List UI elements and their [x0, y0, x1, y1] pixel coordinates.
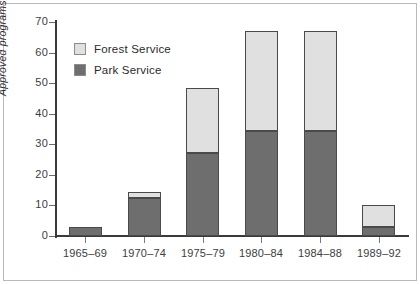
y-tick-label: 40 [4, 107, 48, 119]
bar-segment-forest-service [304, 31, 337, 130]
x-tick-mark [85, 237, 86, 243]
x-tick-mark [320, 237, 321, 243]
legend-label-park-service: Park Service [94, 64, 162, 76]
bar-segment-forest-service [362, 205, 395, 226]
bar-segment-park-service [128, 198, 161, 236]
y-tick-mark [49, 22, 55, 23]
bar-segment-forest-service [186, 88, 219, 154]
legend-item-park-service: Park Service [74, 61, 171, 78]
y-tick-mark [49, 236, 55, 237]
legend-swatch-park-service [74, 64, 86, 76]
x-tick-mark [203, 237, 204, 243]
legend-item-forest-service: Forest Service [74, 40, 171, 57]
bar-segment-park-service [245, 131, 278, 236]
y-tick-mark [49, 83, 55, 84]
y-tick-mark [49, 53, 55, 54]
x-tick-label: 1989–92 [344, 247, 414, 259]
y-tick-label: 30 [4, 137, 48, 149]
x-tick-mark [261, 237, 262, 243]
bar-segment-park-service [304, 131, 337, 236]
y-tick-label: 60 [4, 46, 48, 58]
bar-stack [186, 88, 219, 236]
y-tick-label: 10 [4, 198, 48, 210]
y-tick-mark [49, 114, 55, 115]
y-tick-label: 20 [4, 168, 48, 180]
bar-stack [128, 192, 161, 236]
bar-segment-forest-service [245, 31, 278, 130]
legend-swatch-forest-service [74, 43, 86, 55]
y-tick-mark [49, 205, 55, 206]
y-tick-label: 50 [4, 76, 48, 88]
x-axis-line [55, 235, 409, 237]
y-tick-label: 0 [4, 229, 48, 241]
legend-label-forest-service: Forest Service [94, 43, 171, 55]
y-tick-label: 70 [4, 15, 48, 27]
y-tick-mark [49, 144, 55, 145]
bar-segment-park-service [362, 227, 395, 236]
chart-figure: Approved programs 010203040506070 1965–6… [0, 0, 420, 284]
y-tick-mark [49, 175, 55, 176]
bar-stack [362, 205, 395, 236]
chart-legend: Forest Service Park Service [74, 40, 171, 82]
bar-segment-park-service [69, 227, 102, 236]
bar-stack [245, 31, 278, 236]
x-tick-mark [144, 237, 145, 243]
bar-stack [69, 227, 102, 236]
bar-segment-park-service [186, 153, 219, 236]
bar-stack [304, 31, 337, 236]
y-axis-line [55, 20, 57, 238]
x-tick-mark [379, 237, 380, 243]
